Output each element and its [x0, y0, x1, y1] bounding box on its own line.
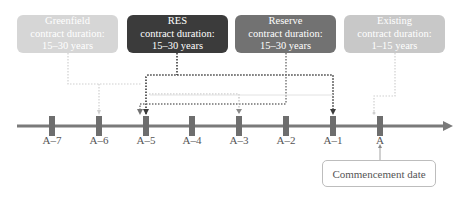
- greenfield-connector: [68, 53, 141, 114]
- tick-label-a-6: A–6: [84, 134, 114, 146]
- commencement-date-box: Commencement date: [322, 160, 436, 187]
- res-title: RES: [127, 15, 228, 28]
- tick-label-a: A: [365, 134, 395, 146]
- greenfield-title: Greenfield: [17, 15, 118, 28]
- greenfield-box: Greenfield contract duration: 15–30 year…: [17, 15, 118, 53]
- existing-connector: [374, 53, 395, 112]
- res-duration-label: contract duration:: [127, 28, 228, 41]
- existing-box: Existing contract duration: 1–15 years: [344, 15, 445, 53]
- existing-duration-value: 1–15 years: [344, 40, 445, 53]
- tick-label-a-7: A–7: [37, 134, 67, 146]
- reserve-box: Reserve contract duration: 15–30 years: [235, 15, 336, 53]
- commencement-date-label: Commencement date: [332, 168, 425, 180]
- timeline-arrow-icon: [443, 121, 453, 131]
- res-duration-value: 15–30 years: [127, 40, 228, 53]
- existing-duration-label: contract duration:: [344, 28, 445, 41]
- existing-title: Existing: [344, 15, 445, 28]
- greenfield-duration-value: 15–30 years: [17, 40, 118, 53]
- tick-label-a-3: A–3: [224, 134, 254, 146]
- tick-label-a-4: A–4: [177, 134, 207, 146]
- res-connector: [146, 53, 333, 114]
- a3-connector: [149, 94, 239, 112]
- greenfield-duration-label: contract duration:: [17, 28, 118, 41]
- reserve-title: Reserve: [235, 15, 336, 28]
- reserve-connector: [140, 53, 286, 113]
- res-box: RES contract duration: 15–30 years: [127, 15, 228, 53]
- tick-label-a-5: A–5: [131, 134, 161, 146]
- reserve-duration-value: 15–30 years: [235, 40, 336, 53]
- tick-label-a-1: A–1: [318, 134, 348, 146]
- reserve-duration-label: contract duration:: [235, 28, 336, 41]
- tick-label-a-2: A–2: [271, 134, 301, 146]
